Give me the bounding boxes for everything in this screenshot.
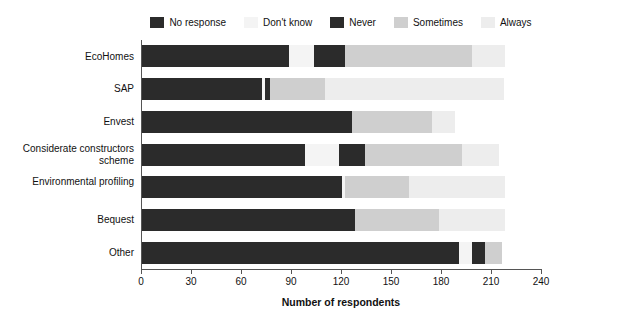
legend-label: Always (500, 17, 532, 28)
x-axis-tick-label: 210 (483, 276, 500, 287)
bar-segment (142, 242, 459, 264)
category-label: Environmental profiling (14, 176, 134, 188)
category-axis: EcoHomesSAPEnvestConsiderate constructor… (8, 40, 134, 269)
bar-segment (439, 209, 506, 231)
legend-label: No response (169, 17, 226, 28)
bar-segment (365, 144, 462, 166)
x-axis-tick-label: 60 (235, 276, 246, 287)
legend-label: Don't know (263, 17, 312, 28)
x-axis: 0306090120150180210240 (141, 269, 542, 293)
legend-item[interactable]: Always (481, 17, 532, 28)
bar-row (142, 144, 499, 166)
x-axis-tick (391, 269, 392, 274)
bar-segment (345, 45, 472, 67)
category-label: Other (14, 247, 134, 259)
x-axis-title: Number of respondents (141, 296, 541, 308)
bar-segment (142, 78, 262, 100)
category-label: Bequest (14, 214, 134, 226)
bar-segment (142, 111, 352, 133)
bar-row (142, 176, 505, 198)
bar-segment (142, 176, 342, 198)
category-label: EcoHomes (14, 51, 134, 63)
x-axis-tick-label: 90 (285, 276, 296, 287)
bar-row (142, 111, 455, 133)
bar-row (142, 78, 504, 100)
legend-swatch-icon (150, 17, 164, 28)
bar-segment (325, 78, 503, 100)
category-label: Considerate constructors scheme (14, 143, 134, 166)
x-axis-tick (191, 269, 192, 274)
bar-segment (314, 45, 346, 67)
bar-segment (339, 144, 366, 166)
bar-segment (305, 144, 338, 166)
bar-segment (352, 111, 432, 133)
bar-segment (142, 144, 305, 166)
bar-row (142, 209, 505, 231)
legend-label: Sometimes (413, 17, 463, 28)
bar-segment (270, 78, 325, 100)
x-axis-tick (441, 269, 442, 274)
x-axis-tick-label: 0 (138, 276, 144, 287)
bar-segment (355, 209, 438, 231)
x-axis-tick (291, 269, 292, 274)
bar-row (142, 45, 505, 67)
chart-legend: No responseDon't knowNeverSometimesAlway… (141, 13, 541, 31)
legend-swatch-icon (244, 17, 258, 28)
bar-segment (485, 242, 502, 264)
bar-segment (459, 242, 472, 264)
legend-item[interactable]: Never (330, 17, 376, 28)
x-axis-tick-label: 150 (383, 276, 400, 287)
legend-item[interactable]: Sometimes (394, 17, 463, 28)
x-axis-tick (491, 269, 492, 274)
bar-segment (345, 176, 408, 198)
bar-segment (142, 209, 355, 231)
bar-segment (409, 176, 506, 198)
category-label: Envest (14, 116, 134, 128)
legend-swatch-icon (330, 17, 344, 28)
x-axis-tick (541, 269, 542, 274)
legend-swatch-icon (481, 17, 495, 28)
x-axis-tick-label: 180 (433, 276, 450, 287)
stacked-bar-chart: No responseDon't knowNeverSometimesAlway… (0, 0, 621, 331)
bar-row (142, 242, 502, 264)
x-axis-tick-label: 30 (185, 276, 196, 287)
x-axis-tick-label: 120 (333, 276, 350, 287)
plot-area (141, 40, 542, 270)
x-axis-tick (141, 269, 142, 274)
bar-segment (472, 242, 485, 264)
bar-segment (472, 45, 505, 67)
legend-item[interactable]: No response (150, 17, 226, 28)
bars-container (142, 40, 542, 269)
x-axis-tick (241, 269, 242, 274)
x-axis-tick (341, 269, 342, 274)
legend-item[interactable]: Don't know (244, 17, 312, 28)
bar-segment (142, 45, 289, 67)
bar-segment (432, 111, 455, 133)
x-axis-tick-label: 240 (533, 276, 550, 287)
bar-segment (462, 144, 499, 166)
legend-label: Never (349, 17, 376, 28)
category-label: SAP (14, 83, 134, 95)
legend-swatch-icon (394, 17, 408, 28)
bar-segment (289, 45, 314, 67)
